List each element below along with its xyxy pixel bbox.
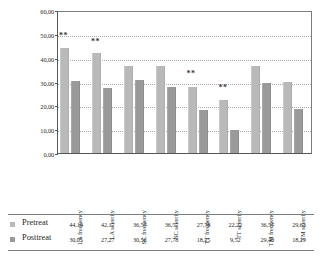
table-cell: 22,22 <box>218 221 252 228</box>
y-tick-label: 30,00 <box>40 79 54 86</box>
table-cell: 36,57 <box>155 221 189 228</box>
significance-marker: ** <box>59 32 68 40</box>
table-cell: 29,40 <box>250 236 284 243</box>
table-top-rule <box>8 214 314 215</box>
bar-post <box>230 130 239 153</box>
bar-post <box>199 110 208 153</box>
significance-marker: ** <box>218 84 227 92</box>
y-axis: 60,0050,0040,0030,0020,0010,000,00 <box>18 11 54 154</box>
y-tick-label: 0,00 <box>43 151 54 158</box>
y-tick-label: 40,00 <box>40 55 54 62</box>
table-cell: 44,19 <box>59 221 93 228</box>
significance-marker: ** <box>91 38 100 46</box>
bar-post <box>103 88 112 153</box>
bar-group <box>122 12 154 153</box>
bar-group <box>186 12 218 153</box>
bar-group <box>90 12 122 153</box>
table-cell: 18,25 <box>186 236 220 243</box>
bar-chart: 60,0050,0040,0030,0020,0010,000,00 *****… <box>0 0 322 212</box>
bars-layer: ******** <box>58 12 311 153</box>
plot-area: ******** <box>57 11 312 154</box>
legend-swatch-posttreat <box>10 237 15 242</box>
table-cell: 9,52 <box>218 236 252 243</box>
table-row: Posttreat 30,0527,2730,5627,7818,259,522… <box>8 233 314 247</box>
bar-group <box>249 12 281 153</box>
bar-pre <box>188 87 197 153</box>
y-tick-label: 50,00 <box>40 31 54 38</box>
table-cell: 27,78 <box>186 221 220 228</box>
bar-post <box>262 83 271 153</box>
bar-post <box>294 109 303 153</box>
bar-pre <box>251 66 260 153</box>
table-cell: 18,29 <box>282 236 316 243</box>
x-axis: LA frequencyLA severitySC frequencySC se… <box>57 156 312 212</box>
bar-group <box>154 12 186 153</box>
table-cell: 29,63 <box>282 221 316 228</box>
bar-group <box>281 12 313 153</box>
bar-pre <box>124 66 133 153</box>
bar-pre <box>283 82 292 153</box>
bar-pre <box>60 48 69 153</box>
y-tick-label: 20,00 <box>40 103 54 110</box>
table-cell: 27,27 <box>91 236 125 243</box>
y-tick-label: 10,00 <box>40 127 54 134</box>
table-cell: 30,05 <box>59 236 93 243</box>
bar-post <box>135 80 144 153</box>
table-row-label-posttreat: Posttreat <box>22 233 51 242</box>
table-cell: 27,78 <box>155 236 189 243</box>
table-cell: 30,56 <box>123 236 157 243</box>
bar-pre <box>156 66 165 153</box>
table-cell: 36,57 <box>123 221 157 228</box>
data-table: Pretreat 44,1942,1736,5736,5727,7822,223… <box>8 214 314 258</box>
table-bottom-rule <box>8 250 314 251</box>
y-tick-mark <box>55 154 58 155</box>
legend-swatch-pretreat <box>10 222 15 227</box>
figure-container: 60,0050,0040,0030,0020,0010,000,00 *****… <box>0 0 322 263</box>
bar-post <box>167 87 176 153</box>
table-row: Pretreat 44,1942,1736,5736,5727,7822,223… <box>8 218 314 232</box>
table-cell: 36,57 <box>250 221 284 228</box>
bar-pre <box>92 53 101 154</box>
bar-post <box>71 81 80 153</box>
table-cell: 42,17 <box>91 221 125 228</box>
y-tick-label: 60,00 <box>40 8 54 15</box>
table-row-label-pretreat: Pretreat <box>22 218 48 227</box>
significance-marker: ** <box>187 70 196 78</box>
bar-pre <box>219 100 228 153</box>
